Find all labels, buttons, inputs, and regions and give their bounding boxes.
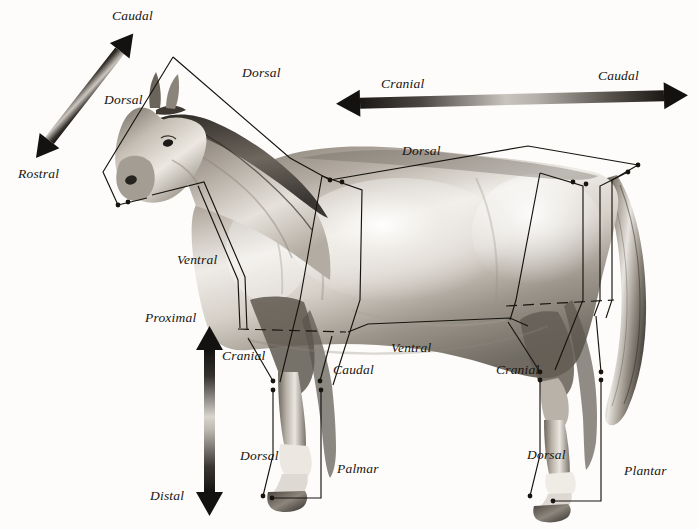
label-trunk-caudal: Caudal xyxy=(333,362,374,378)
label-neck-dorsal: Dorsal xyxy=(242,65,281,81)
hindlimb-dorsal-bracket xyxy=(530,380,540,496)
label-hindlimb-plantar: Plantar xyxy=(624,463,667,479)
axis-label-rostral-caudal-start: Rostral xyxy=(18,166,59,182)
anatomy-diagram: Caudal Rostral Cranial Caudal Proximal D… xyxy=(0,0,698,529)
label-head-dorsal: Dorsal xyxy=(104,92,143,108)
axis-label-cranial-caudal-end: Caudal xyxy=(598,68,639,84)
label-hindlimb-cranial: Cranial xyxy=(496,362,539,378)
label-neck-ventral: Ventral xyxy=(177,252,217,268)
diagram-canvas xyxy=(0,0,698,529)
axis-label-cranial-caudal-start: Cranial xyxy=(381,76,424,92)
hindleg-hoof xyxy=(533,504,570,522)
label-hindlimb-dorsal: Dorsal xyxy=(527,447,566,463)
label-trunk-ventral: Ventral xyxy=(391,340,431,356)
label-trunk-cranial: Cranial xyxy=(222,348,265,364)
rump-highlight xyxy=(472,174,604,290)
axis-arrow-proximal-distal xyxy=(196,326,223,516)
horse-illustration xyxy=(115,72,646,522)
hindlimb-plantar-leader xyxy=(596,316,601,372)
ear-near xyxy=(149,72,161,108)
ear-far xyxy=(166,74,179,109)
foreleg-hoof xyxy=(267,491,307,512)
axis-label-proximal-distal-end: Distal xyxy=(150,488,184,504)
axis-label-rostral-caudal-end: Caudal xyxy=(112,8,153,24)
label-forelimb-palmar: Palmar xyxy=(337,461,379,477)
axis-label-proximal-distal-start: Proximal xyxy=(145,310,196,326)
label-trunk-dorsal: Dorsal xyxy=(402,143,441,159)
label-forelimb-dorsal: Dorsal xyxy=(240,448,279,464)
forelimb-dorsal-bracket xyxy=(263,390,273,496)
